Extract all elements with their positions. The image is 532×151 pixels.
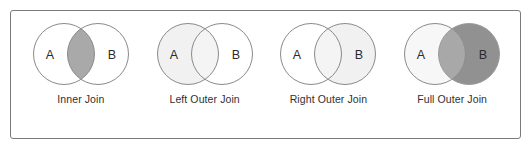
venn-panel-inner-join: A B Inner Join <box>19 11 143 106</box>
venn-caption: Left Outer Join <box>169 92 239 106</box>
venn-panel-right-outer-join: A B Right Outer Join <box>267 11 391 106</box>
set-label-b: B <box>479 48 487 62</box>
set-label-b: B <box>108 48 116 62</box>
venn-diagram-full-outer-join: A B <box>396 20 508 88</box>
venn-caption: Right Outer Join <box>290 92 367 106</box>
figure-border: A B Inner Join A <box>10 10 521 139</box>
set-label-a: A <box>169 48 178 62</box>
set-label-a: A <box>46 48 55 62</box>
venn-diagram-inner-join: A B <box>25 20 137 88</box>
set-label-b: B <box>355 48 363 62</box>
set-label-a: A <box>417 48 426 62</box>
venn-caption: Inner Join <box>57 92 104 106</box>
venn-panel-left-outer-join: A B Left Outer Join <box>143 11 267 106</box>
set-label-a: A <box>293 48 302 62</box>
venn-panel-full-outer-join: A B Full Outer Join <box>390 11 514 106</box>
venn-caption: Full Outer Join <box>417 92 487 106</box>
join-types-figure: A B Inner Join A <box>0 0 532 151</box>
diagram-row: A B Inner Join A <box>11 11 522 140</box>
venn-diagram-right-outer-join: A B <box>272 20 384 88</box>
set-label-b: B <box>231 48 239 62</box>
venn-diagram-left-outer-join: A B <box>149 20 261 88</box>
